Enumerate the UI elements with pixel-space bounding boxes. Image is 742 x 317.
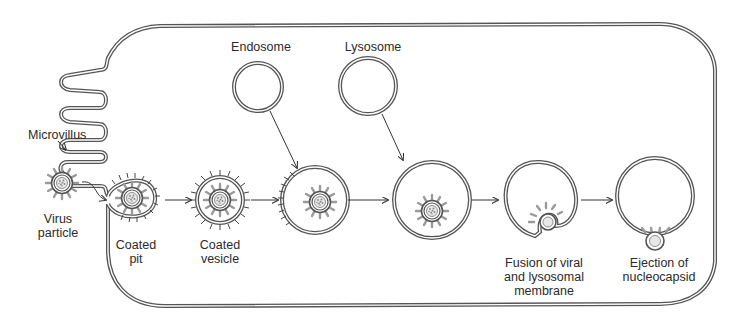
endosome <box>234 63 282 111</box>
label-microvillus: Microvillus <box>28 128 86 142</box>
label-endosome: Endosome <box>226 40 296 54</box>
endosome-fused-vesicle <box>278 167 348 233</box>
nucleocapsid-ejection-vesicle <box>617 158 693 250</box>
label-virus-particle: Virus particle <box>28 212 88 240</box>
label-coated-pit: Coated pit <box>106 238 166 266</box>
membrane-fusion-vesicle <box>506 162 576 236</box>
process-arrows <box>58 111 612 200</box>
label-coated-vesicle: Coated vesicle <box>190 238 250 266</box>
coated-vesicle <box>190 170 250 230</box>
label-fusion: Fusion of viral and lysosomal membrane <box>494 256 594 298</box>
lysosome-fused-vesicle <box>394 162 470 238</box>
coated-pit <box>108 173 160 222</box>
label-lysosome: Lysosome <box>338 40 408 54</box>
label-ejection: Ejection of nucleocapsid <box>614 256 704 284</box>
lysosome <box>340 58 396 114</box>
virus-particle <box>46 167 106 200</box>
